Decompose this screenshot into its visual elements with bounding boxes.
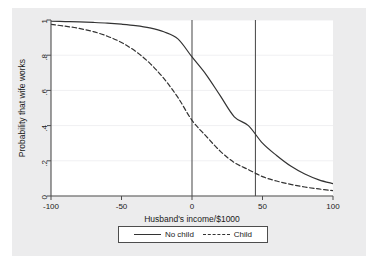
y-axis-title: Probability that wife works bbox=[18, 20, 30, 196]
x-tick-label: 50 bbox=[243, 203, 283, 211]
x-tick-label: 0 bbox=[172, 203, 212, 211]
y-tick-label: 1 bbox=[41, 19, 49, 37]
legend-label-child: Child bbox=[234, 231, 252, 239]
y-tick-label: .8 bbox=[41, 54, 49, 72]
x-axis-title: Husband's income/$1000 bbox=[51, 215, 333, 224]
legend-entry-child[interactable]: Child bbox=[203, 231, 252, 239]
legend-key-dashed-icon bbox=[203, 234, 230, 235]
plot-area bbox=[51, 20, 333, 196]
legend[interactable]: No child Child bbox=[118, 226, 268, 243]
y-tick-label: .4 bbox=[41, 125, 49, 143]
x-tick-label: 100 bbox=[313, 203, 353, 211]
y-tick-label: .6 bbox=[41, 89, 49, 107]
y-tick-label: .2 bbox=[41, 160, 49, 178]
legend-entry-no-child[interactable]: No child bbox=[134, 231, 194, 239]
legend-label-no-child: No child bbox=[165, 231, 194, 239]
plot-svg bbox=[51, 20, 333, 196]
legend-key-solid-icon bbox=[134, 234, 161, 235]
x-tick-label: -100 bbox=[31, 203, 71, 211]
x-tick-label: -50 bbox=[102, 203, 142, 211]
figure-container: 0.2.4.6.81 -100-50050100 Probability tha… bbox=[0, 0, 378, 264]
